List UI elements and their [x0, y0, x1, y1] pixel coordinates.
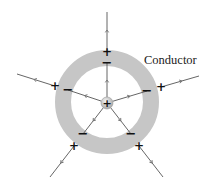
plus-charge-lower-left: +: [69, 139, 79, 153]
minus-charge-top: −: [102, 55, 113, 70]
minus-charge-lower-left: −: [78, 126, 89, 141]
conductor-field-diagram: + +−+−+−+−+− Conductor: [0, 0, 209, 185]
minus-charge-right: −: [142, 83, 153, 98]
plus-charge-left: +: [50, 79, 60, 93]
plus-charge-right: +: [156, 80, 166, 94]
conductor-label: Conductor: [144, 53, 198, 67]
minus-charge-left: −: [63, 82, 74, 97]
plus-charge-lower-right: +: [134, 139, 144, 153]
minus-charge-lower-right: −: [126, 126, 137, 141]
central-charge-sign: +: [102, 97, 111, 110]
field-line-outer-right: [161, 76, 199, 87]
